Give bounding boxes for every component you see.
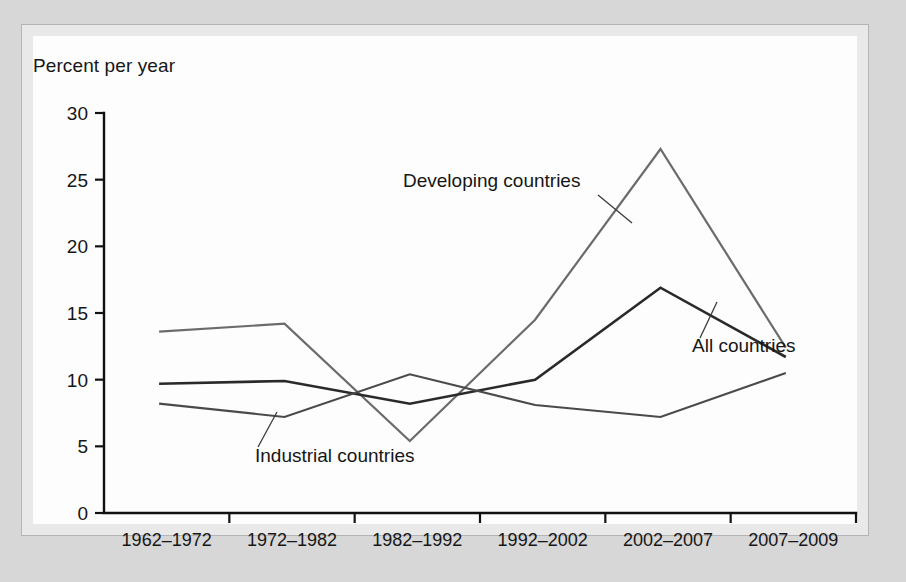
annotation-leader-line bbox=[258, 412, 277, 447]
x-tick-label: 1982–1992 bbox=[372, 530, 462, 550]
x-tick-labels: 1962–19721972–19821982–19921992–20022002… bbox=[122, 530, 839, 550]
x-tick-label: 1962–1972 bbox=[122, 530, 212, 550]
y-tick-label: 25 bbox=[67, 170, 88, 191]
x-tick-label: 2007–2009 bbox=[748, 530, 838, 550]
y-tick-label: 20 bbox=[67, 236, 88, 257]
series-line-developing-countries bbox=[159, 149, 786, 441]
x-ticks bbox=[229, 513, 856, 523]
annotation-label: Industrial countries bbox=[255, 445, 414, 466]
y-ticks bbox=[95, 113, 104, 513]
chart-page: Percent per year 051015202530 1962–19721… bbox=[0, 0, 906, 582]
y-tick-labels: 051015202530 bbox=[67, 103, 88, 524]
y-tick-label: 10 bbox=[67, 370, 88, 391]
y-tick-label: 5 bbox=[77, 436, 88, 457]
y-tick-label: 30 bbox=[67, 103, 88, 124]
annotation-label: Developing countries bbox=[403, 170, 580, 191]
line-chart: 051015202530 1962–19721972–19821982–1992… bbox=[0, 0, 906, 582]
annotation-leader-line bbox=[598, 195, 632, 223]
y-tick-label: 0 bbox=[77, 503, 88, 524]
series-lines bbox=[159, 149, 786, 441]
x-tick-label: 1972–1982 bbox=[247, 530, 337, 550]
x-tick-label: 2002–2007 bbox=[623, 530, 713, 550]
annotation-label: All countries bbox=[692, 335, 796, 356]
x-tick-label: 1992–2002 bbox=[498, 530, 588, 550]
annotation-leader-line bbox=[700, 302, 717, 338]
y-tick-label: 15 bbox=[67, 303, 88, 324]
